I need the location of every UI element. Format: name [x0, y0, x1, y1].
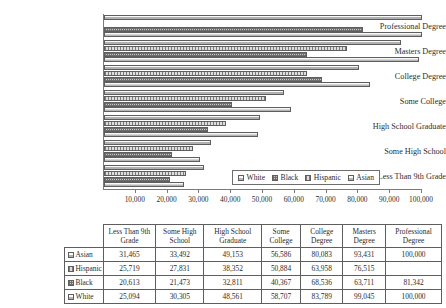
table-cell: 48,561 — [204, 290, 262, 304]
table-body: Asian31,46533,49249,15356,58680,08393,43… — [65, 248, 442, 304]
bar-asian — [104, 140, 211, 145]
table-cell: 25,719 — [103, 262, 155, 276]
bar-white — [104, 107, 291, 112]
table-cell: 31,465 — [103, 248, 155, 262]
x-tick-mark — [421, 189, 422, 193]
bar-asian — [104, 115, 260, 120]
table-cell: 68,536 — [301, 276, 343, 290]
bar-asian — [104, 165, 204, 170]
x-tick-label: 90,000 — [379, 195, 399, 204]
bar-group — [104, 89, 422, 114]
table-cell: 83,789 — [301, 290, 343, 304]
bar-group — [104, 64, 422, 89]
legend-swatch-icon — [305, 175, 311, 181]
table-column-header: College Degree — [301, 225, 343, 248]
table-cell: 56,586 — [261, 248, 300, 262]
table-row: Asian31,46533,49249,15356,58680,08393,43… — [65, 248, 442, 262]
bar-white — [104, 82, 370, 87]
table-cell: 38,352 — [204, 262, 262, 276]
bar-group — [104, 139, 422, 164]
x-tick-label: 20,000 — [156, 195, 176, 204]
series-name: Hispanic — [76, 264, 102, 273]
legend-item-hispanic: Hispanic — [305, 173, 341, 182]
table-cell: 30,305 — [156, 290, 204, 304]
x-tick-mark — [357, 189, 358, 193]
bar-hispanic — [104, 96, 266, 101]
bar-black — [104, 102, 232, 107]
bar-white — [104, 182, 184, 187]
bar-black — [104, 52, 307, 57]
bar-asian — [104, 65, 359, 70]
x-tick-mark — [135, 189, 136, 193]
table-cell: 40,367 — [261, 276, 300, 290]
x-tick-mark — [389, 189, 390, 193]
table-row-header: Hispanic — [65, 262, 104, 276]
x-tick-mark — [294, 189, 295, 193]
table-cell: 93,431 — [343, 248, 386, 262]
table-column-header: Some College — [261, 225, 300, 248]
bar-asian — [104, 90, 284, 95]
legend-swatch-icon — [348, 175, 354, 181]
legend-item-white: White — [238, 173, 265, 182]
series-swatch-icon — [68, 280, 74, 286]
table-cell: 21,473 — [156, 276, 204, 290]
table-cell: 33,492 — [156, 248, 204, 262]
table-cell: 99,045 — [343, 290, 386, 304]
table-cell: 76,515 — [343, 262, 386, 276]
bar-black — [104, 77, 322, 82]
table-cell: 50,884 — [261, 262, 300, 276]
bar-hispanic — [104, 146, 193, 151]
x-tick-mark — [167, 189, 168, 193]
x-tick-label: 100,000 — [409, 195, 433, 204]
bar-hispanic — [104, 71, 307, 76]
chart-legend: WhiteBlackHispanicAsian — [232, 170, 380, 185]
table-column-header: Less Than 9th Grade — [103, 225, 155, 248]
series-name: White — [76, 292, 94, 301]
table-cell: 20,613 — [103, 276, 155, 290]
bar-white — [104, 132, 258, 137]
table-cell: 49,153 — [204, 248, 262, 262]
table-cell: 81,342 — [386, 276, 442, 290]
table-cell: 63,958 — [301, 262, 343, 276]
bar-white — [104, 157, 200, 162]
x-tick-mark — [230, 189, 231, 193]
table-head: Less Than 9th GradeSome High SchoolHigh … — [65, 225, 442, 248]
table-cell: 100,000 — [386, 290, 442, 304]
x-tick-label: 40,000 — [220, 195, 240, 204]
legend-item-black: Black — [272, 173, 298, 182]
table-column-header: Some High School — [156, 225, 204, 248]
plot-area — [103, 14, 422, 189]
x-tick-mark — [326, 189, 327, 193]
table-row-header: Asian — [65, 248, 104, 262]
bar-hispanic — [104, 46, 347, 51]
table-cell: 58,707 — [261, 290, 300, 304]
series-name: Black — [76, 278, 93, 287]
table-cell: 63,711 — [343, 276, 386, 290]
series-name: Asian — [76, 250, 93, 259]
x-tick-mark — [262, 189, 263, 193]
table-row-header: White — [65, 290, 104, 304]
bar-group — [104, 39, 422, 64]
legend-label: Asian — [356, 173, 374, 182]
legend-label: Black — [281, 173, 299, 182]
bar-hispanic — [104, 121, 226, 126]
table-row: Hispanic25,71927,83138,35250,88463,95876… — [65, 262, 442, 276]
x-tick-label: 50,000 — [252, 195, 272, 204]
legend-swatch-icon — [272, 175, 278, 181]
x-tick-mark — [198, 189, 199, 193]
table-cell: 25,094 — [103, 290, 155, 304]
bar-white — [104, 32, 422, 37]
table-cell — [386, 262, 442, 276]
legend-item-asian: Asian — [348, 173, 374, 182]
legend-swatch-icon — [238, 175, 244, 181]
x-tick-label: 80,000 — [347, 195, 367, 204]
data-table-wrapper: Less Than 9th GradeSome High SchoolHigh … — [64, 224, 442, 304]
legend-label: Hispanic — [314, 173, 341, 182]
x-tick-label: 30,000 — [188, 195, 208, 204]
series-swatch-icon — [68, 266, 74, 272]
table-cell: 100,000 — [386, 248, 442, 262]
bar-asian — [104, 15, 422, 20]
table-cell: 32,811 — [204, 276, 262, 290]
table-cell: 80,083 — [301, 248, 343, 262]
bar-hispanic — [104, 171, 186, 176]
